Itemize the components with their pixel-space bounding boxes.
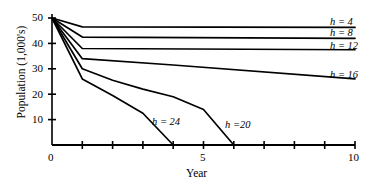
- series-label-h8: h = 8: [330, 28, 353, 39]
- series-line-h-4: [52, 18, 355, 27]
- series-label-h20: h =20: [225, 120, 250, 131]
- series-label-h24: h = 24: [152, 117, 180, 128]
- series-line-h-12: [52, 18, 355, 50]
- y-axis-title: Population (1,000's): [15, 17, 27, 127]
- series-label-h16: h = 16: [330, 70, 358, 81]
- x-axis-title: Year: [186, 168, 207, 180]
- y-tick-label-10: 10: [32, 114, 43, 125]
- y-tick-label-50: 50: [32, 12, 43, 23]
- chart-figure: Population (1,000's) 50 40 30 20 10 0 5 …: [0, 0, 383, 188]
- series-label-h4: h = 4: [330, 17, 353, 28]
- y-tick-label-30: 30: [32, 63, 43, 74]
- y-axis-title-wrap: Population (1,000's): [0, 0, 1, 1]
- x-tick-label-5: 5: [200, 152, 206, 163]
- x-tick-label-10: 10: [348, 152, 359, 163]
- series-label-h12: h = 12: [330, 41, 358, 52]
- y-tick-label-20: 20: [32, 89, 43, 100]
- chart-plot-area: [0, 0, 383, 188]
- x-tick-label-0: 0: [48, 152, 54, 163]
- y-tick-label-40: 40: [32, 38, 43, 49]
